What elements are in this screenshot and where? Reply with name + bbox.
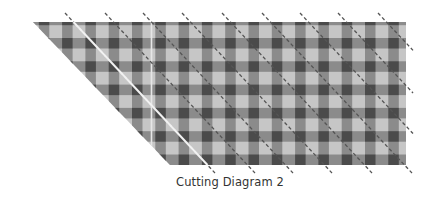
diagram-caption: Cutting Diagram 2 — [0, 175, 430, 189]
cutting-diagram — [0, 0, 430, 202]
gingham-column — [39, 22, 50, 165]
